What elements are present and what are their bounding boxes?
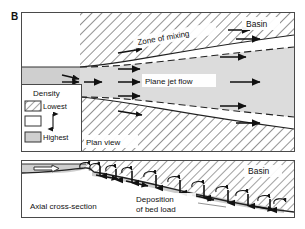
cross-section-svg: Basin Deposition of bed load Axial cross… [22, 161, 294, 217]
legend-swatch-lowest [25, 101, 41, 111]
panel-label-b: B [11, 11, 18, 22]
axial-cross-section-label: Axial cross-section [30, 202, 97, 211]
channel-bank-upper [22, 13, 80, 67]
deposition-label-line1: Deposition [136, 195, 174, 204]
deposition-label-line2: of bed load [136, 205, 176, 214]
density-legend-svg: Density Lowest Highest [22, 85, 81, 151]
legend-swatch-middle [25, 116, 41, 126]
legend-label-lowest: Lowest [43, 102, 68, 111]
plane-jet-flow-label: Plane jet flow [145, 77, 193, 86]
plan-view-label: Plan view [86, 138, 120, 147]
legend-label-highest: Highest [43, 133, 69, 142]
density-legend: Density Lowest Highest [21, 84, 82, 152]
basin-label-xsec: Basin [248, 166, 270, 176]
figure-root: B [0, 0, 305, 229]
axial-cross-section-panel: Basin Deposition of bed load Axial cross… [21, 160, 295, 218]
density-legend-title: Density [33, 89, 60, 98]
legend-swatch-highest [25, 132, 41, 142]
basin-label-plan: Basin [246, 19, 268, 29]
